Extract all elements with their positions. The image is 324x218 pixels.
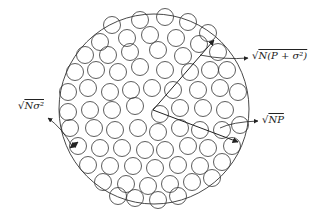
noise-radius-text: Nσ² — [24, 100, 44, 111]
noise-sphere — [200, 140, 217, 157]
noise-sphere — [217, 102, 234, 119]
noise-sphere — [60, 104, 77, 121]
sphere-packing-diagram — [0, 0, 324, 218]
noise-sphere — [104, 102, 121, 119]
noise-sphere — [172, 100, 189, 117]
noise-sphere — [157, 62, 174, 79]
noise-sphere — [125, 158, 142, 175]
noise-sphere — [195, 100, 212, 117]
noise-sphere — [202, 62, 219, 79]
noise-sphere — [219, 62, 236, 79]
noise-sphere — [212, 80, 229, 97]
noise-sphere — [157, 9, 174, 26]
noise-sphere — [162, 176, 179, 193]
noise-sphere — [182, 64, 199, 81]
noise-sphere — [127, 190, 144, 207]
noise-sphere — [168, 30, 185, 47]
outer-radius-label: √N(P + σ²) — [252, 50, 307, 61]
noise-sphere — [107, 122, 124, 139]
noise-sphere — [123, 82, 140, 99]
noise-sphere — [102, 84, 119, 101]
noise-sphere — [132, 59, 149, 76]
noise-sphere — [140, 178, 157, 195]
noise-radius-label: √Nσ² — [18, 100, 44, 111]
noise-sphere — [150, 42, 167, 59]
signal-radius-text: NP — [268, 114, 283, 125]
signal-radius-label: √NP — [262, 114, 284, 125]
noise-sphere — [150, 124, 167, 141]
noise-sphere — [114, 140, 131, 157]
noise-sphere — [230, 84, 247, 101]
noise-sphere — [232, 117, 249, 134]
noise-sphere — [127, 98, 144, 115]
noise-sphere — [95, 174, 112, 191]
noise-sphere — [142, 27, 159, 44]
noise-sphere — [170, 157, 187, 174]
noise-sphere — [147, 160, 164, 177]
noise-sphere — [80, 80, 97, 97]
noise-sphere — [190, 82, 207, 99]
noise-sphere — [184, 174, 201, 191]
radius-arrows — [153, 40, 238, 142]
noise-sphere — [102, 158, 119, 175]
noise-sphere — [137, 142, 154, 159]
noise-sphere — [110, 64, 127, 81]
noise-sphere — [88, 62, 105, 79]
noise-sphere — [157, 142, 174, 159]
outer-radius-text: N(P + σ²) — [258, 50, 307, 61]
noise-sphere — [82, 102, 99, 119]
noise-sphere — [92, 34, 109, 51]
noise-sphere — [144, 80, 161, 97]
noise-sphere — [86, 120, 103, 137]
noise-sphere — [110, 188, 127, 205]
noise-sphere — [165, 82, 182, 99]
noise-sphere — [100, 47, 117, 64]
noise-sphere — [104, 17, 121, 34]
noise-sphere — [180, 138, 197, 155]
outer-label-leader — [200, 55, 248, 59]
noise-sphere — [77, 47, 94, 64]
noise-sphere — [130, 120, 147, 137]
noise-sphere — [180, 14, 197, 31]
noise-sphere — [175, 48, 192, 65]
noise-sphere — [150, 192, 167, 209]
noise-sphere — [92, 140, 109, 157]
